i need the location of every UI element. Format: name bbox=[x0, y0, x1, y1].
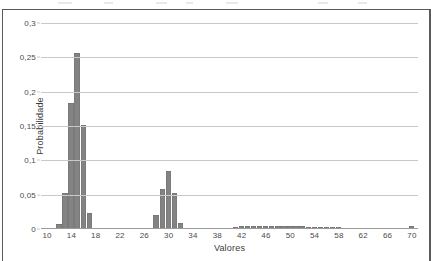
histogram-bar bbox=[172, 193, 177, 229]
y-axis-tick-label: 0,1 bbox=[24, 156, 36, 165]
histogram-bar bbox=[62, 193, 67, 229]
y-axis-tick-mark bbox=[37, 229, 40, 230]
scan-artifact-strip bbox=[0, 0, 431, 9]
gridline bbox=[41, 57, 418, 58]
x-axis-tick-label: 46 bbox=[261, 231, 270, 240]
x-axis-title: Valores bbox=[41, 243, 418, 253]
histogram-bar bbox=[166, 171, 171, 229]
x-axis-tick-label: 58 bbox=[334, 231, 343, 240]
x-axis-tick-label: 18 bbox=[91, 231, 100, 240]
gridline bbox=[41, 126, 418, 127]
gridline bbox=[41, 92, 418, 93]
y-axis-tick-label: 0,15 bbox=[20, 122, 36, 131]
x-axis-line bbox=[41, 228, 418, 229]
x-axis-tick-label: 38 bbox=[213, 231, 222, 240]
y-axis-tick-mark bbox=[37, 160, 40, 161]
histogram-bar bbox=[81, 125, 86, 229]
plot-area: 00,050,10,150,20,250,3 bbox=[41, 23, 418, 229]
x-axis-tick-label: 42 bbox=[237, 231, 246, 240]
gridline bbox=[41, 160, 418, 161]
x-axis-tick-label: 54 bbox=[310, 231, 319, 240]
x-axis-tick-label: 10 bbox=[42, 231, 51, 240]
x-axis-tick-label: 62 bbox=[359, 231, 368, 240]
histogram-bar bbox=[153, 215, 158, 229]
y-axis-tick-label: 0,3 bbox=[24, 19, 36, 28]
y-axis-tick-label: 0,05 bbox=[20, 190, 36, 199]
gridline bbox=[41, 195, 418, 196]
x-axis-tick-label: 34 bbox=[188, 231, 197, 240]
chart-frame-right-edge bbox=[429, 9, 431, 261]
histogram-bar bbox=[87, 213, 92, 229]
x-axis-tick-label: 26 bbox=[140, 231, 149, 240]
y-axis-tick-label: 0,25 bbox=[20, 53, 36, 62]
x-axis-tick-label: 66 bbox=[383, 231, 392, 240]
y-axis-tick-mark bbox=[37, 23, 40, 24]
x-axis-tick-label: 22 bbox=[115, 231, 124, 240]
y-axis-tick-mark bbox=[37, 126, 40, 127]
x-axis-tick-label: 50 bbox=[286, 231, 295, 240]
x-axis-tick-label: 14 bbox=[67, 231, 76, 240]
y-axis-tick-mark bbox=[37, 194, 40, 195]
histogram-bar bbox=[74, 53, 79, 229]
y-axis-tick-label: 0,2 bbox=[24, 87, 36, 96]
x-axis-tick-label: 30 bbox=[164, 231, 173, 240]
histogram-bar bbox=[68, 103, 73, 229]
y-axis-tick-mark bbox=[37, 91, 40, 92]
x-axis-tick-label: 70 bbox=[407, 231, 416, 240]
y-axis-tick-mark bbox=[37, 57, 40, 58]
gridline bbox=[41, 23, 418, 24]
y-axis-tick-label: 0 bbox=[31, 225, 36, 234]
